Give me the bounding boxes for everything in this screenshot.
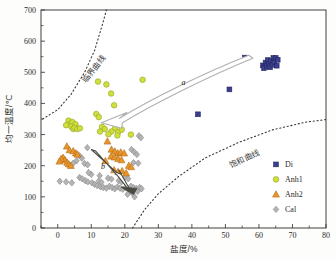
data-marker-circle xyxy=(96,114,102,120)
data-marker-circle xyxy=(111,103,117,109)
data-marker-circle xyxy=(63,122,69,128)
data-marker-circle xyxy=(106,132,112,138)
data-marker-circle xyxy=(115,133,121,139)
data-marker-circle xyxy=(97,129,103,135)
y-tick-label: 700 xyxy=(24,6,36,15)
data-marker-circle xyxy=(108,91,114,97)
legend-label: Anh1 xyxy=(285,175,303,184)
data-marker-square xyxy=(275,57,280,62)
x-tick-label: 10 xyxy=(87,231,95,240)
scatter-chart-figure: 临界曲线饱和曲线 ab 0102030405060708001002003004… xyxy=(0,0,336,259)
plot-svg: 临界曲线饱和曲线 ab 0102030405060708001002003004… xyxy=(0,0,336,259)
plot-border xyxy=(41,10,326,228)
x-tick-label: 60 xyxy=(255,231,263,240)
data-marker-circle xyxy=(140,77,146,83)
x-tick-label: 40 xyxy=(188,231,196,240)
data-marker-circle xyxy=(104,82,110,88)
data-marker-circle xyxy=(128,132,134,138)
y-tick-label: 200 xyxy=(24,162,36,171)
y-axis-title: 均一温度/℃ xyxy=(4,95,14,143)
x-tick-label: 30 xyxy=(154,231,162,240)
arrow-a-label: a xyxy=(182,78,186,87)
data-marker-square xyxy=(274,63,279,68)
legend-label: Di xyxy=(285,160,294,169)
y-tick-label: 600 xyxy=(24,37,36,46)
y-tick-label: 400 xyxy=(24,99,36,108)
plot-frame xyxy=(41,10,326,228)
data-marker-circle xyxy=(77,126,83,132)
y-tick-label: 300 xyxy=(24,131,36,140)
data-marker-square xyxy=(274,162,279,167)
x-tick-label: 20 xyxy=(121,231,129,240)
arrow-b-label: b xyxy=(101,162,105,171)
y-tick-label: 500 xyxy=(24,68,36,77)
data-marker-square xyxy=(196,112,201,117)
data-marker-circle xyxy=(273,177,279,183)
legend-label: Cal xyxy=(285,205,297,214)
data-marker-circle xyxy=(95,79,101,85)
x-tick-label: 50 xyxy=(221,231,229,240)
y-tick-label: 100 xyxy=(24,193,36,202)
y-tick-label: 0 xyxy=(32,224,36,233)
legend-label: Anh2 xyxy=(285,190,303,199)
data-marker-square xyxy=(227,87,232,92)
x-tick-label: 0 xyxy=(56,231,60,240)
x-axis-title: 盐度/% xyxy=(170,244,198,254)
x-tick-label: 70 xyxy=(288,231,296,240)
x-tick-label: 80 xyxy=(322,231,330,240)
